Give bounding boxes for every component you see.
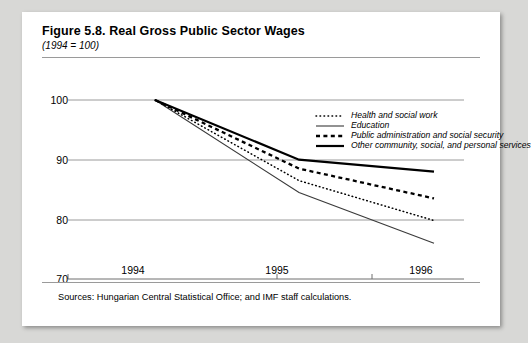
ytick-label-100: 100 [34,94,68,106]
xtick-label-1994: 1994 [108,264,158,276]
ytick-label-70: 70 [34,273,68,285]
figure-card: Figure 5.8. Real Gross Public Sector Wag… [22,12,500,326]
series-line-education [155,100,434,243]
legend-label-education: Education [351,120,389,130]
legend-swatch-health-and-social-work [315,111,345,121]
ytick-label-80: 80 [34,214,68,226]
xtick-label-1996: 1996 [396,264,446,276]
source-note: Sources: Hungarian Central Statistical O… [58,292,351,302]
legend-label-other-community-social-and-personal-services: Other community, social, and personal se… [351,140,531,150]
xtick-label-1995: 1995 [252,264,302,276]
chart-plot-area: 100 90 80 70 1994 1995 1996 [22,12,500,326]
legend-swatch-education [315,121,345,131]
legend-swatch-public-administration-and-social-security [315,131,345,141]
legend-label-health-and-social-work: Health and social work [351,110,437,120]
source-divider [42,282,480,283]
legend-swatch-other-community-social-and-personal-services [315,141,345,151]
line-chart [22,12,500,326]
ytick-label-90: 90 [34,154,68,166]
legend-label-public-administration-and-social-security: Public administration and social securit… [351,130,503,140]
